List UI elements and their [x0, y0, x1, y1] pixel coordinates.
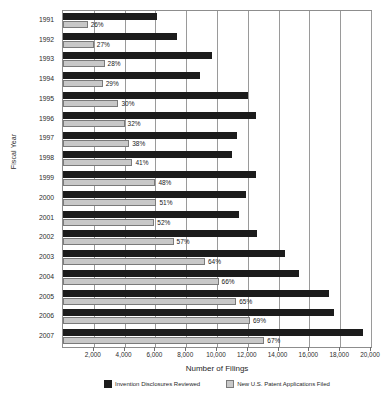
bar-applications-1996	[63, 120, 125, 127]
bar-applications-2000	[63, 199, 156, 206]
data-label-1992: 27%	[95, 41, 110, 48]
y-tick-1992: 1992	[0, 36, 54, 43]
y-tick-2002: 2002	[0, 233, 54, 240]
y-tick-1995: 1995	[0, 95, 54, 102]
bar-applications-1991	[63, 21, 88, 28]
x-tick-18000: 18,000	[329, 351, 349, 358]
y-tick-2006: 2006	[0, 312, 54, 319]
x-tick-6000: 6,000	[146, 351, 162, 358]
bar-applications-1994	[63, 80, 103, 87]
data-label-2000: 51%	[157, 199, 172, 206]
x-tick-2000: 2,000	[85, 351, 101, 358]
bar-disclosures-1996	[63, 112, 256, 119]
bar-disclosures-1998	[63, 151, 232, 158]
bar-disclosures-2004	[63, 270, 299, 277]
bar-group-2007: 67%	[63, 327, 371, 347]
bar-group-1993: 28%	[63, 51, 371, 71]
y-tick-2003: 2003	[0, 253, 54, 260]
x-tick-16000: 16,000	[299, 351, 319, 358]
bar-applications-1992	[63, 41, 94, 48]
bar-group-1999: 48%	[63, 169, 371, 189]
bar-group-2004: 66%	[63, 268, 371, 288]
x-tick-20000: 20,000	[360, 351, 380, 358]
data-label-2002: 57%	[175, 238, 190, 245]
data-label-2004: 66%	[220, 278, 235, 285]
data-label-1995: 30%	[119, 100, 134, 107]
bar-group-1998: 41%	[63, 149, 371, 169]
x-tick-10000: 10,000	[206, 351, 226, 358]
bar-disclosures-2007	[63, 329, 363, 336]
bar-applications-1995	[63, 100, 118, 107]
data-label-2001: 52%	[155, 219, 170, 226]
bar-disclosures-1993	[63, 52, 212, 59]
gridline-20000	[371, 11, 372, 347]
y-tick-1997: 1997	[0, 134, 54, 141]
bar-applications-2003	[63, 258, 205, 265]
bar-disclosures-2000	[63, 191, 246, 198]
bar-applications-1998	[63, 159, 132, 166]
bar-applications-1997	[63, 140, 129, 147]
bar-disclosures-2003	[63, 250, 285, 257]
y-tick-2004: 2004	[0, 273, 54, 280]
bar-applications-2004	[63, 278, 219, 285]
bar-series-group: 26%27%28%29%30%32%38%41%48%51%52%57%64%6…	[63, 11, 371, 347]
bar-group-2003: 64%	[63, 248, 371, 268]
data-label-1997: 38%	[130, 140, 145, 147]
bar-chart: Fiscal Year 1991199219931994199519961997…	[0, 0, 390, 394]
bar-group-1997: 38%	[63, 130, 371, 150]
bar-applications-2005	[63, 298, 236, 305]
bar-group-2005: 65%	[63, 288, 371, 308]
y-tick-2001: 2001	[0, 214, 54, 221]
y-tick-1999: 1999	[0, 174, 54, 181]
bar-disclosures-1992	[63, 33, 177, 40]
data-label-1994: 29%	[104, 80, 119, 87]
bar-applications-2006	[63, 317, 250, 324]
bar-group-2006: 69%	[63, 307, 371, 327]
y-tick-2005: 2005	[0, 293, 54, 300]
y-tick-2000: 2000	[0, 194, 54, 201]
y-tick-1993: 1993	[0, 55, 54, 62]
x-axis-title: Number of Filings	[62, 364, 372, 373]
y-axis-tick-labels: 1991199219931994199519961997199819992000…	[0, 10, 58, 348]
bar-disclosures-1997	[63, 132, 237, 139]
x-axis-tick-labels: 2,0004,0006,0008,00010,00012,00014,00016…	[62, 351, 372, 363]
bar-disclosures-1994	[63, 72, 200, 79]
legend-label: New U.S. Patent Applications Filed	[237, 381, 330, 387]
legend-label: Invention Disclosures Reviewed	[115, 381, 200, 387]
bar-group-1996: 32%	[63, 110, 371, 130]
y-tick-1994: 1994	[0, 75, 54, 82]
plot-area: 26%27%28%29%30%32%38%41%48%51%52%57%64%6…	[62, 10, 372, 348]
y-tick-1991: 1991	[0, 16, 54, 23]
x-tick-8000: 8,000	[177, 351, 193, 358]
dark-swatch-icon	[104, 380, 112, 388]
bar-group-2002: 57%	[63, 228, 371, 248]
data-label-1998: 41%	[133, 159, 148, 166]
bar-applications-1993	[63, 60, 105, 67]
y-tick-2007: 2007	[0, 332, 54, 339]
legend-item-applications: New U.S. Patent Applications Filed	[226, 380, 330, 388]
bar-disclosures-2001	[63, 211, 239, 218]
bar-disclosures-2005	[63, 290, 329, 297]
data-label-1999: 48%	[156, 179, 171, 186]
data-label-1993: 28%	[106, 60, 121, 67]
bar-disclosures-1991	[63, 13, 157, 20]
bar-group-1994: 29%	[63, 70, 371, 90]
bar-group-2000: 51%	[63, 189, 371, 209]
bar-applications-1999	[63, 179, 155, 186]
bar-group-1995: 30%	[63, 90, 371, 110]
bar-group-1991: 26%	[63, 11, 371, 31]
bar-disclosures-2002	[63, 230, 257, 237]
x-tick-4000: 4,000	[116, 351, 132, 358]
data-label-2005: 65%	[237, 298, 252, 305]
bar-applications-2001	[63, 219, 154, 226]
x-tick-12000: 12,000	[237, 351, 257, 358]
y-tick-1996: 1996	[0, 115, 54, 122]
bar-group-2001: 52%	[63, 209, 371, 229]
data-label-1991: 26%	[89, 21, 104, 28]
x-tick-14000: 14,000	[268, 351, 288, 358]
bar-disclosures-2006	[63, 309, 334, 316]
bar-applications-2002	[63, 238, 174, 245]
bar-disclosures-1995	[63, 92, 248, 99]
bar-group-1992: 27%	[63, 31, 371, 51]
y-tick-1998: 1998	[0, 154, 54, 161]
